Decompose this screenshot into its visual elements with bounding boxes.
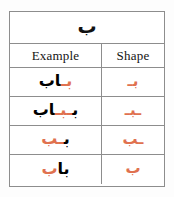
example-cell: بـبـاب — [10, 97, 102, 125]
column-header-shape-label: Shape — [117, 48, 150, 64]
shape-form: ـبـ — [125, 103, 141, 120]
shape-cell: ـبـ — [102, 97, 164, 125]
table-row: بـب ـب — [10, 126, 164, 155]
shape-cell: ـب — [102, 126, 164, 154]
example-word: بـب — [41, 131, 69, 149]
example-highlighted-form: ب — [41, 159, 57, 178]
shape-form: ب — [125, 161, 140, 178]
column-header-shape: Shape — [102, 44, 164, 67]
table-row: بـبـاب ـبـ — [10, 97, 164, 126]
example-cell: باب — [10, 155, 102, 184]
arabic-letter-forms-table: ب Example Shape بـاب بـ بـبـاب ـبـ — [9, 11, 165, 187]
table-row: باب ب — [10, 155, 164, 184]
example-highlighted-form: ـبـ — [55, 100, 72, 119]
example-word: باب — [41, 161, 69, 179]
example-suffix: اب — [39, 71, 61, 90]
shape-form: بـ — [128, 74, 139, 91]
example-cell: بـب — [10, 126, 102, 154]
example-prefix: با — [58, 159, 70, 178]
letter-forms-table-page: ب Example Shape بـاب بـ بـبـاب ـبـ — [0, 0, 174, 197]
example-word: بـبـاب — [33, 102, 79, 120]
example-prefix: ب — [72, 100, 78, 119]
column-header-example-label: Example — [32, 48, 80, 64]
page-title: ب — [10, 17, 164, 38]
example-highlighted-form: ـب — [41, 129, 63, 148]
example-cell: بـاب — [10, 68, 102, 96]
shape-form: ـب — [122, 132, 143, 149]
shape-cell: ب — [102, 155, 164, 184]
column-header-example: Example — [10, 44, 102, 67]
example-prefix: ب — [64, 129, 70, 148]
table-row: بـاب بـ — [10, 68, 164, 97]
shape-cell: بـ — [102, 68, 164, 96]
table-title-row: ب — [10, 12, 164, 44]
table-header-row: Example Shape — [10, 44, 164, 68]
example-word: بـاب — [39, 73, 73, 91]
example-suffix: اب — [33, 100, 55, 119]
example-highlighted-form: بـ — [61, 71, 72, 90]
